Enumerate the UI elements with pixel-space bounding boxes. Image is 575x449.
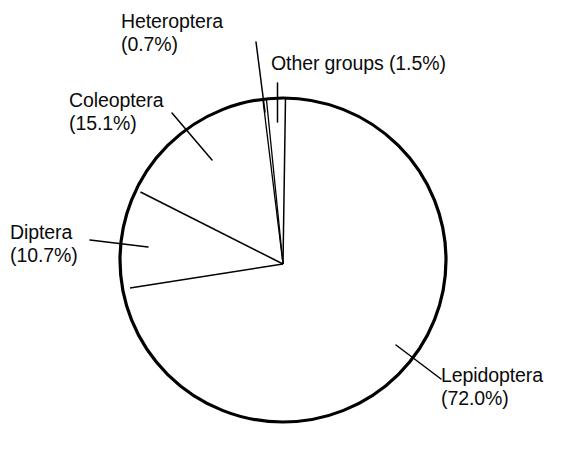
slice-label-other-groups-percent: (1.5%) <box>389 52 446 74</box>
slice-label-coleoptera: Coleoptera (15.1%) <box>69 89 163 135</box>
slice-label-diptera-name: Diptera <box>10 221 72 243</box>
pie-chart-figure: Heteroptera (0.7%) Other groups (1.5%) C… <box>0 0 575 449</box>
slice-label-other-groups: Other groups (1.5%) <box>271 52 446 75</box>
slice-label-other-groups-name: Other groups <box>271 52 384 74</box>
slice-label-coleoptera-name: Coleoptera <box>69 89 163 111</box>
slice-label-heteroptera-percent: (0.7%) <box>121 33 223 56</box>
slice-label-lepidoptera-percent: (72.0%) <box>441 387 543 410</box>
slice-label-coleoptera-percent: (15.1%) <box>69 112 163 135</box>
slice-label-heteroptera: Heteroptera (0.7%) <box>121 10 223 56</box>
slice-label-heteroptera-name: Heteroptera <box>121 10 223 32</box>
slice-label-lepidoptera-name: Lepidoptera <box>441 364 543 386</box>
slice-label-diptera: Diptera (10.7%) <box>10 221 78 267</box>
slice-label-lepidoptera: Lepidoptera (72.0%) <box>441 364 543 410</box>
slice-label-diptera-percent: (10.7%) <box>10 244 78 267</box>
